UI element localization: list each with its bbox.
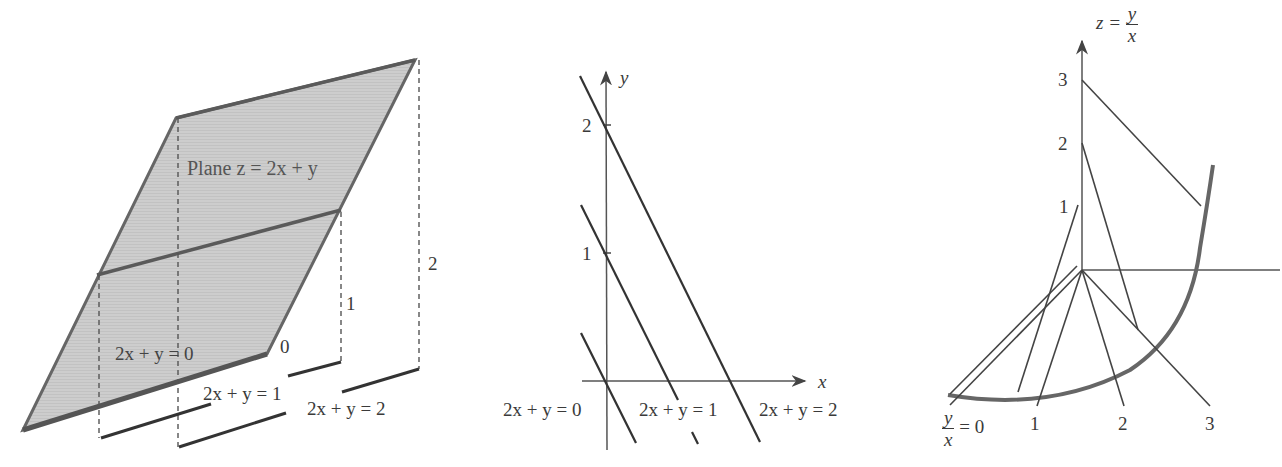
- z-tick-1: 1: [1059, 197, 1069, 216]
- base-tick-2: 2: [1118, 414, 1128, 433]
- z-fraction: yx: [1126, 4, 1138, 45]
- level-lines-2d-panel: y x 2 1 2x + y = 0 2x + y = 1 2x + y = 2: [500, 0, 900, 467]
- y-tick-1: 1: [582, 244, 592, 263]
- z-axis-label: z = yx: [1096, 4, 1138, 45]
- x-axis-label: x: [818, 372, 826, 391]
- line-label-0: 2x + y = 0: [503, 400, 581, 419]
- level-label-1: 2x + y = 1: [203, 384, 281, 403]
- level-label-2: 2x + y = 2: [307, 399, 385, 418]
- line-label-2: 2x + y = 2: [759, 400, 837, 419]
- curved-edge: [948, 165, 1213, 400]
- height-label-1: 1: [346, 294, 356, 313]
- base-label-zero: yx = 0: [942, 408, 984, 449]
- y-tick-2: 2: [582, 116, 592, 135]
- surface-graphic: [930, 0, 1282, 467]
- line-2x-y-0: [581, 333, 636, 443]
- line-2x-y-1: [581, 205, 678, 400]
- y-axis-label: y: [620, 68, 628, 87]
- level-label-0: 2x + y = 0: [115, 344, 193, 363]
- line-label-1: 2x + y = 1: [639, 400, 717, 419]
- height-label-0: 0: [280, 337, 290, 356]
- z-tick-2: 2: [1058, 134, 1068, 153]
- base-tick-1: 1: [1030, 414, 1040, 433]
- surface-y-over-x-panel: z = yx 3 2 1 yx = 0 1 2 3: [930, 0, 1282, 467]
- plane-3d-panel: Plane z = 2x + y 2x + y = 0 2x + y = 1 2…: [0, 0, 470, 467]
- z-tick-3: 3: [1058, 70, 1068, 89]
- base-fraction: yx: [942, 408, 954, 449]
- plane-surface: [23, 60, 415, 430]
- height-label-2: 2: [428, 254, 438, 273]
- plane-title-label: Plane z = 2x + y: [187, 158, 318, 178]
- base-tick-3: 3: [1205, 414, 1215, 433]
- level-lines-graphic: [500, 0, 900, 467]
